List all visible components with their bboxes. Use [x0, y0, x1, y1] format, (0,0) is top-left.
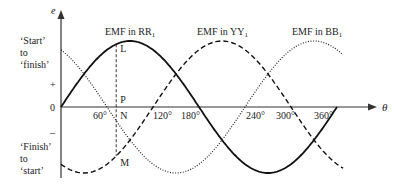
label-emf-bb1: EMF in BB1 [292, 26, 343, 39]
side-top-line1: ‘Start’ [20, 35, 46, 46]
label-rr1-text: EMF in RR [105, 26, 152, 37]
side-bottom-line1: ‘Finish’ [20, 141, 52, 152]
label-emf-yy1: EMF in YY1 [197, 26, 248, 39]
minus-sign: – [49, 127, 56, 138]
label-yy1-sub: 1 [244, 31, 248, 39]
y-axis-label: e [51, 5, 56, 16]
side-top-line2: to [20, 47, 28, 58]
label-bb1-sub: 1 [339, 31, 343, 39]
label-rr1-sub: 1 [152, 31, 156, 39]
point-L: L [120, 43, 126, 54]
side-top-line3: ‘finish’ [20, 59, 49, 70]
side-bottom-line2: to [20, 153, 28, 164]
x-axis-arrow-icon [368, 104, 377, 111]
axes [61, 16, 370, 178]
finish-to-start-label: ‘Finish’ to ‘start’ [20, 141, 52, 176]
point-M: M [120, 157, 129, 168]
side-bottom-line3: ‘start’ [20, 165, 44, 176]
plus-sign: + [50, 79, 56, 90]
tick-240: 240° [246, 110, 265, 121]
tick-360: 360° [314, 110, 333, 121]
x-axis-label: θ [382, 101, 388, 113]
y-axis-arrow-icon [58, 10, 65, 19]
tick-300: 300° [276, 110, 295, 121]
label-bb1-text: EMF in BB [292, 26, 339, 37]
label-emf-rr1: EMF in RR1 [105, 26, 156, 39]
start-to-finish-label: ‘Start’ to ‘finish’ [20, 35, 49, 70]
point-N: N [120, 110, 127, 121]
point-P: P [120, 94, 126, 105]
tick-180: 180° [181, 110, 200, 121]
emf-diagram: e θ + 0 – 60° 120° 180° 240° 300° 360° ‘… [0, 0, 394, 187]
label-yy1-text: EMF in YY [197, 26, 244, 37]
zero-label: 0 [50, 102, 55, 113]
tick-120: 120° [153, 110, 172, 121]
tick-60: 60° [93, 110, 107, 121]
